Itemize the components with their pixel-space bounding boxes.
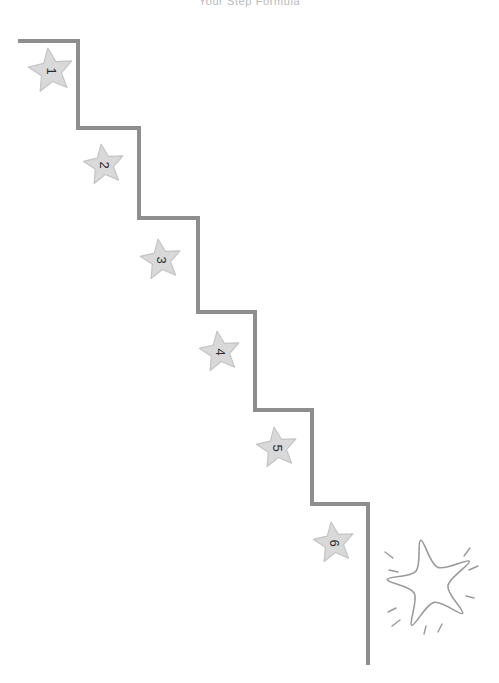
- step-star-4[interactable]: 4: [199, 331, 239, 370]
- staircase-line: [18, 41, 368, 665]
- step-star-5[interactable]: 5: [256, 427, 296, 466]
- sparkle-ray-3: [388, 608, 396, 612]
- sparkle-star-outline: [387, 540, 469, 625]
- sparkle-star-group: [385, 540, 478, 634]
- sparkle-ray-6: [469, 566, 478, 570]
- step-star-number: 5: [270, 444, 285, 451]
- staircase-group: [18, 41, 368, 665]
- step-star-number: 4: [213, 348, 228, 355]
- step-star-2[interactable]: 2: [83, 144, 123, 183]
- sparkle-ray-2: [389, 570, 398, 572]
- sparkle-ray-8: [438, 624, 442, 632]
- step-star-1[interactable]: 1: [28, 48, 71, 91]
- staircase-diagram-svg: 123456: [0, 0, 499, 683]
- sparkle-ray-5: [464, 548, 470, 556]
- step-star-3[interactable]: 3: [140, 239, 180, 278]
- sparkle-ray-7: [466, 596, 474, 598]
- step-star-6[interactable]: 6: [313, 522, 353, 561]
- step-star-number: 2: [97, 161, 112, 168]
- sparkle-ray-4: [392, 620, 400, 626]
- sparkle-ray-1: [385, 552, 393, 558]
- step-star-number: 3: [154, 256, 169, 263]
- sparkle-ray-9: [424, 626, 426, 634]
- diagram-canvas: Your Step Formula 123456: [0, 0, 499, 683]
- step-star-number: 1: [44, 67, 59, 74]
- step-star-number: 6: [327, 539, 342, 546]
